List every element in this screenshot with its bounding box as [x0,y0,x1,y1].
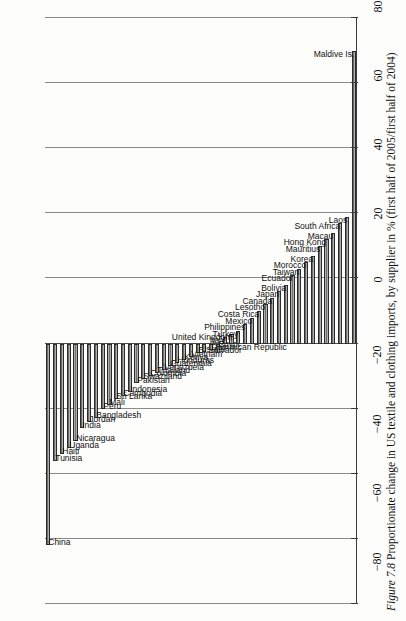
bar-label-china: China [49,538,71,547]
caption-text: Proportionate change in US textile and c… [385,52,397,560]
bar-label-bangladesh: Bangladesh [96,411,141,420]
figure-number: Figure 7.8 [385,562,397,610]
bar-uganda [67,343,71,447]
bar-label-korea: Korea [290,254,313,263]
bar-laos [345,216,349,343]
bar-taiwan [297,268,301,343]
figure-caption: Figure 7.8 Proportionate change in US te… [378,0,404,621]
plot-area: ChinaTunisiaHaitiUgandaNicaraguaIndiaJor… [45,18,357,604]
bar-peru [101,343,105,408]
axis-tick-labels: 806040200−20−40−60−80−100 [354,0,378,621]
bar-south-africa [338,223,342,343]
bar-hong-kong [324,239,328,343]
bar-label-nicaragua: Nicaragua [76,433,115,442]
bars-group: ChinaTunisiaHaitiUgandaNicaraguaIndiaJor… [45,18,357,604]
bar-macau [331,232,335,343]
bar-mali [107,343,111,405]
bar-china [46,343,50,545]
bar-label-bolivia: Bolivia [261,283,286,292]
bar-haiti [60,343,64,454]
bar-mauritius [318,245,322,343]
bar-jordan [87,343,91,421]
bar-label-macau: Macau [308,231,334,240]
bar-bolivia [284,284,288,343]
bar-tunisia [53,343,57,460]
bar-label-maldive-is-: Maldive Is. [313,49,354,58]
bar-morocco [304,262,308,343]
bar-label-indonesia: Indonesia [130,385,167,394]
bar-nicaragua [73,343,77,441]
bar-label-laos: Laos [329,215,347,224]
bar-bangladesh [94,343,98,418]
bar-india [80,343,84,428]
chart-stage: ChinaTunisiaHaitiUgandaNicaraguaIndiaJor… [27,18,379,604]
figure-container: ChinaTunisiaHaitiUgandaNicaraguaIndiaJor… [0,0,406,621]
bar-korea [311,255,315,343]
bar-ecuador [290,275,294,343]
bar-japan [277,291,281,343]
